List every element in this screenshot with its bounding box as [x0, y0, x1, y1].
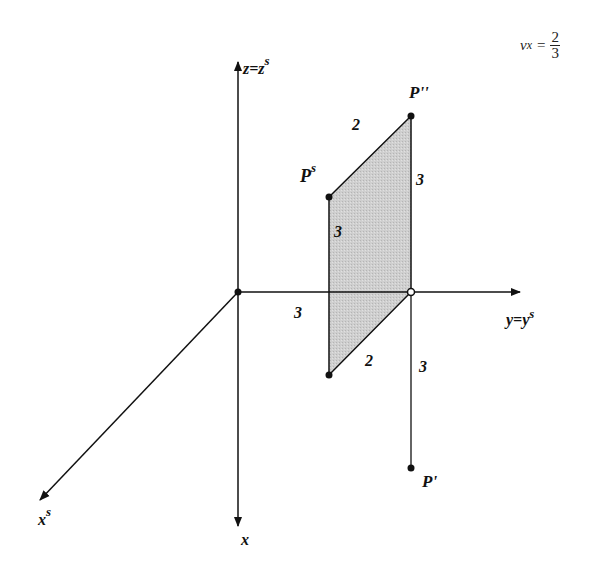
- shaded-plane: [329, 116, 411, 375]
- point-p-s: [326, 194, 333, 201]
- dim-left-edge: 3: [333, 223, 342, 240]
- point-p-prime: [408, 465, 415, 472]
- z-axis-label: z=zs: [242, 53, 270, 77]
- x-axis-label: x: [240, 531, 249, 548]
- origin-point: [235, 289, 242, 296]
- y-axis-point: [408, 289, 415, 296]
- dim-bottom-edge: 2: [364, 352, 373, 369]
- velocity-formula: vx = 2 3: [520, 30, 560, 61]
- bottom-vertex-point: [326, 372, 333, 379]
- formula-variable: v: [520, 37, 527, 54]
- formula-subscript: x: [527, 38, 532, 53]
- label-p-double-prime: P'': [408, 83, 429, 102]
- dim-right-edge-lower: 3: [418, 358, 427, 375]
- dim-right-edge-upper: 3: [415, 171, 424, 188]
- xs-axis: [40, 292, 238, 500]
- point-p-double-prime: [408, 113, 415, 120]
- formula-equals: =: [537, 37, 545, 54]
- formula-numerator: 2: [550, 30, 560, 46]
- projection-diagram: z=zs y=ys xs x P'' Ps P' 2 3 3 3 2 3: [0, 0, 611, 576]
- xs-axis-label: xs: [37, 504, 51, 528]
- formula-denominator: 3: [551, 46, 559, 61]
- dim-origin-to-y: 3: [293, 304, 302, 321]
- label-p-prime: P': [421, 472, 437, 491]
- y-axis-label: y=ys: [504, 306, 534, 329]
- label-p-s: Ps: [299, 160, 316, 186]
- dim-top-edge: 2: [351, 116, 360, 133]
- formula-fraction: 2 3: [550, 30, 560, 61]
